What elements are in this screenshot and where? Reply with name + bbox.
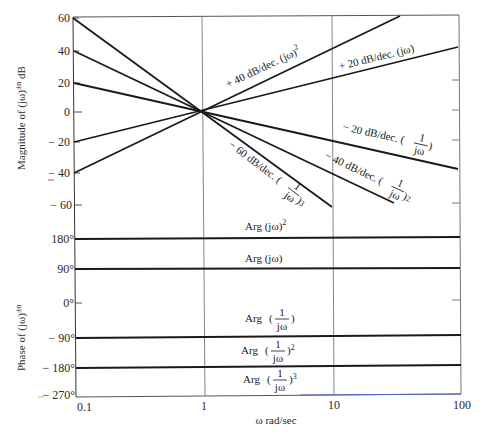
tick-0deg: 0° xyxy=(63,296,74,310)
phase-axis-title: Phase of (jω)±n xyxy=(14,305,28,371)
tick-180deg: 180° xyxy=(51,232,74,246)
tick-minus-40: − 40 xyxy=(48,166,70,180)
phase-180 xyxy=(75,237,460,239)
tick-60: 60 xyxy=(58,11,70,25)
svg-text:)2: )2 xyxy=(401,190,413,205)
svg-text:1: 1 xyxy=(277,367,283,379)
decade-gridlines xyxy=(202,16,334,396)
svg-text:Arg: Arg xyxy=(243,373,260,385)
tick-minus-90deg: − 90° xyxy=(48,331,75,345)
tick-0: 0 xyxy=(64,105,70,119)
tick-x-10: 10 xyxy=(328,398,340,412)
svg-text:(: ( xyxy=(265,344,269,357)
svg-text:)3: )3 xyxy=(289,372,297,386)
svg-text:1: 1 xyxy=(275,338,281,350)
label-arg-inv-jw2: Arg ( 1 jω )2 xyxy=(241,338,295,364)
svg-text:Arg: Arg xyxy=(245,312,262,324)
tick-x-100: 100 xyxy=(453,398,471,412)
mag-axis-title: Magnitude of (jω)±n dB xyxy=(14,66,28,170)
svg-text:jω: jω xyxy=(274,381,285,393)
svg-text:): ) xyxy=(291,312,295,325)
plot-frame xyxy=(73,15,461,397)
svg-text:jω: jω xyxy=(272,352,283,364)
curve-minus-20 xyxy=(74,83,458,169)
tick-minus-270deg: − 270° xyxy=(42,388,75,402)
bode-plot: 60 40 20 0 − 20 − 40 − 60 180° 90° 0° − … xyxy=(0,0,481,434)
svg-text:): ) xyxy=(427,139,434,153)
x-tick-labels: 0.1 1 10 100 xyxy=(77,398,471,414)
svg-text:− 40 dB/dec. (: − 40 dB/dec. ( xyxy=(323,149,386,188)
svg-text:1: 1 xyxy=(418,131,426,144)
mag-tick-labels: 60 40 20 0 − 20 − 40 − 60 xyxy=(48,11,72,212)
tick-40: 40 xyxy=(58,44,70,58)
tick-x-1: 1 xyxy=(201,399,207,413)
svg-text:(: ( xyxy=(267,373,271,386)
tick-minus-180deg: − 180° xyxy=(42,361,75,375)
tick-x-0-1: 0.1 xyxy=(77,400,92,414)
label-minus-20: − 20 dB/dec. ( 1 jω ) xyxy=(340,114,435,158)
label-arg-jw: Arg (jω) xyxy=(245,252,283,265)
tick-90deg: 90° xyxy=(57,262,74,276)
svg-text:1: 1 xyxy=(396,176,406,189)
label-plus-20: + 20 dB/dec. (jω) xyxy=(338,42,416,73)
svg-text:− 20 dB/dec. (: − 20 dB/dec. ( xyxy=(341,120,406,146)
phase-tick-labels: 180° 90° 0° − 90° − 180° − 270° xyxy=(42,232,75,402)
label-minus-60: − 60 dB/dec. ( 1 jω )3 xyxy=(223,133,314,211)
label-arg-inv-jw: Arg ( 1 jω ) xyxy=(245,306,295,332)
gridline-10 xyxy=(332,16,334,395)
svg-text:(: ( xyxy=(269,312,273,325)
x-axis-title: ω rad/sec xyxy=(255,414,296,426)
tick-20: 20 xyxy=(58,76,70,90)
tick-minus-60: − 60 xyxy=(50,198,72,212)
phase-minus-180 xyxy=(76,365,461,368)
label-arg-inv-jw3: Arg ( 1 jω )3 xyxy=(243,367,297,393)
tick-minus-20: − 20 xyxy=(48,135,70,149)
svg-text:Arg: Arg xyxy=(241,344,258,356)
gridline-1 xyxy=(202,16,205,396)
label-plus-40: + 40 dB/dec. (jω)2 xyxy=(223,42,303,90)
svg-text:jω: jω xyxy=(276,320,287,332)
svg-text:1: 1 xyxy=(279,306,285,318)
svg-text:− 60 dB/dec. (: − 60 dB/dec. ( xyxy=(226,138,284,187)
mag-ticks-right xyxy=(452,80,460,300)
svg-text:)2: )2 xyxy=(287,343,295,357)
label-arg-jw2: Arg (jω)2 xyxy=(245,218,286,233)
phase-90 xyxy=(75,268,460,269)
phase-minus-90 xyxy=(76,335,461,338)
svg-text:jω: jω xyxy=(412,143,426,157)
